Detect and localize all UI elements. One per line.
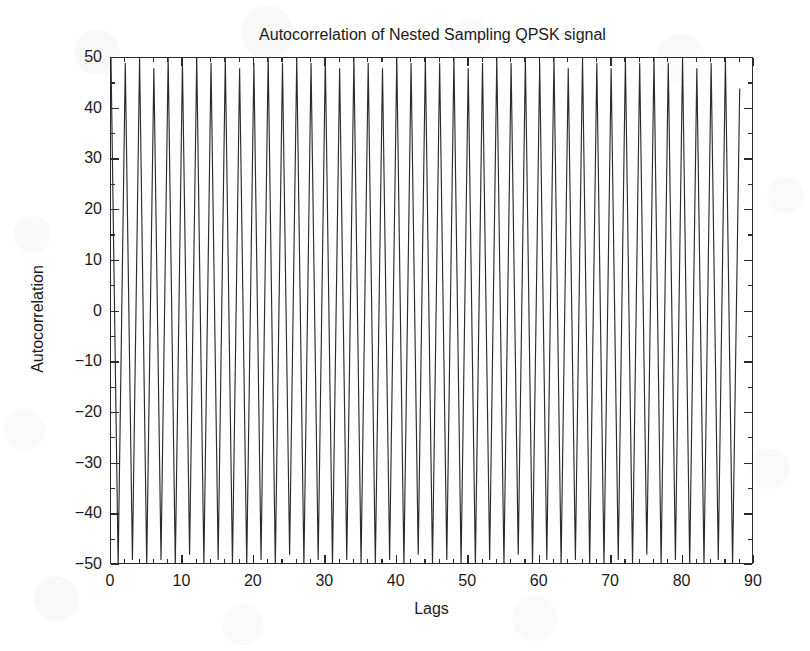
x-tick-label: 90: [723, 572, 783, 590]
y-tick-label: −10: [36, 352, 102, 370]
y-tick-label: −40: [36, 504, 102, 522]
x-tick-label: 10: [151, 572, 211, 590]
y-tick-label: −50: [36, 555, 102, 573]
x-tick-label: 0: [80, 572, 140, 590]
x-tick-label: 30: [294, 572, 354, 590]
y-tick-label: 30: [36, 149, 102, 167]
x-tick-label: 20: [223, 572, 283, 590]
y-tick-label: 50: [36, 48, 102, 66]
x-tick-label: 40: [366, 572, 426, 590]
y-axis-tick-labels: 50403020100−10−20−30−40−50: [0, 0, 810, 651]
y-tick-label: −20: [36, 403, 102, 421]
y-tick-label: 40: [36, 99, 102, 117]
y-tick-label: 20: [36, 200, 102, 218]
y-tick-label: 0: [36, 302, 102, 320]
x-tick-label: 60: [509, 572, 569, 590]
y-tick-label: 10: [36, 251, 102, 269]
figure-canvas: Autocorrelation of Nested Sampling QPSK …: [0, 0, 810, 651]
x-tick-label: 80: [652, 572, 712, 590]
y-tick-label: −30: [36, 454, 102, 472]
x-tick-label: 70: [580, 572, 640, 590]
x-tick-label: 50: [437, 572, 497, 590]
